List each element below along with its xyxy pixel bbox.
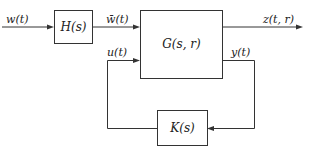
signal-label-u: u(t) <box>107 46 127 59</box>
signal-label-w-bar: w̄(t) <box>106 13 128 26</box>
arrow-head-icon <box>296 25 303 30</box>
signal-z-output: z(t, r) <box>223 13 303 30</box>
block-diagram: w(t) H(s) w̄(t) G(s, r) z(t, r) y(t) K(s… <box>0 0 315 152</box>
signal-label-y: y(t) <box>230 46 250 59</box>
arrow-head-icon <box>207 126 214 131</box>
block-h: H(s) <box>55 11 93 44</box>
arrow-head-icon <box>133 25 140 30</box>
block-g: G(s, r) <box>141 11 223 79</box>
signal-w-bar: w̄(t) <box>93 13 140 30</box>
signal-label-z: z(t, r) <box>262 13 294 26</box>
block-label-h: H(s) <box>60 20 87 34</box>
signal-label-w: w(t) <box>6 13 28 26</box>
block-k: K(s) <box>158 111 208 146</box>
arrow-head-icon <box>133 58 140 63</box>
arrow-head-icon <box>47 25 54 30</box>
signal-w-input: w(t) <box>2 13 54 30</box>
block-label-g: G(s, r) <box>162 37 201 51</box>
block-label-k: K(s) <box>169 121 195 135</box>
